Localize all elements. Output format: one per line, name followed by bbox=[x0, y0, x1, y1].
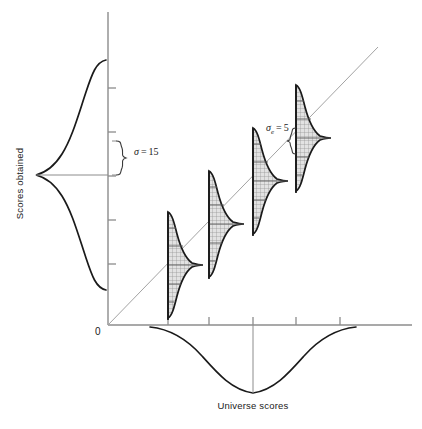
sigma-error-value: 5 bbox=[284, 122, 289, 133]
identity-diagonal-line bbox=[108, 47, 378, 325]
sigma-total-value: 15 bbox=[149, 146, 159, 157]
sigma-error-equals: = bbox=[274, 122, 284, 133]
sigma-total-brace bbox=[112, 141, 126, 175]
conditional-distribution-1 bbox=[168, 212, 203, 320]
origin-label: 0 bbox=[95, 326, 101, 337]
sigma-total-annotation: σ=15 bbox=[134, 146, 159, 157]
sigma-total-equals: = bbox=[139, 146, 149, 157]
marginal-universe-scores-distribution bbox=[150, 325, 356, 393]
conditional-distribution-2 bbox=[209, 171, 244, 279]
x-axis-ticks bbox=[168, 317, 340, 325]
marginal-obtained-scores-distribution bbox=[36, 60, 108, 290]
plot-canvas bbox=[0, 0, 422, 429]
conditional-error-distributions bbox=[168, 85, 331, 320]
y-axis-title: Scores obtained bbox=[14, 124, 25, 244]
conditional-distribution-3 bbox=[253, 128, 288, 236]
y-axis-ticks bbox=[108, 88, 116, 264]
x-axis-title: Universe scores bbox=[193, 400, 313, 411]
statistical-figure: Scores obtained Universe scores 0 σ=15 σ… bbox=[0, 0, 422, 429]
sigma-error-annotation: σe=5 bbox=[266, 122, 289, 136]
